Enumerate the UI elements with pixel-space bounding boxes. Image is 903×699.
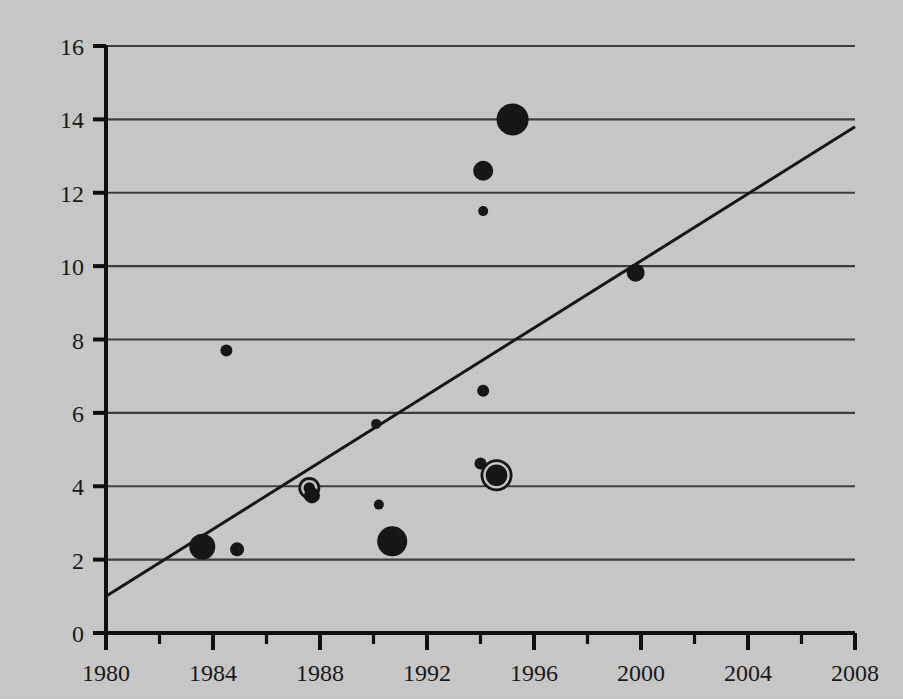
data-point-p09 <box>478 206 488 216</box>
data-point-series <box>189 103 644 559</box>
x-tick-label-1984: 1984 <box>189 660 237 686</box>
y-tick-label-12: 12 <box>60 181 84 207</box>
y-tick-label-6: 6 <box>72 401 84 427</box>
gridlines <box>106 46 855 560</box>
chart-page: 0246810121416 19801984198819921996200020… <box>0 0 903 699</box>
data-point-p15 <box>627 264 645 282</box>
data-point-p06 <box>371 419 381 429</box>
y-tick-label-10: 10 <box>60 254 84 280</box>
trend-line <box>106 127 855 597</box>
x-axis <box>104 633 855 650</box>
y-tick-label-8: 8 <box>72 328 84 354</box>
data-point-p11 <box>477 385 489 397</box>
data-point-p01 <box>189 534 215 560</box>
x-tick-label-1992: 1992 <box>403 660 451 686</box>
data-point-p10 <box>473 161 493 181</box>
y-tick-label-4: 4 <box>72 474 84 500</box>
x-tick-label-1988: 1988 <box>296 660 344 686</box>
x-tick-label-1980: 1980 <box>82 660 130 686</box>
bubble-scatter-chart: 0246810121416 19801984198819921996200020… <box>0 0 903 699</box>
x-tick-label-2004: 2004 <box>724 660 772 686</box>
data-point-p03 <box>230 542 244 556</box>
x-tick-label-2008: 2008 <box>831 660 879 686</box>
data-point-p07 <box>374 500 384 510</box>
trend-line-path <box>106 127 855 597</box>
data-point-p02 <box>220 345 232 357</box>
y-tick-label-2: 2 <box>72 548 84 574</box>
data-point-p08 <box>377 526 407 556</box>
x-tick-label-1996: 1996 <box>510 660 558 686</box>
data-point-p14 <box>497 103 529 135</box>
x-tick-label-2000: 2000 <box>617 660 665 686</box>
y-axis <box>93 45 106 633</box>
y-tick-label-14: 14 <box>60 107 84 133</box>
y-tick-label-16: 16 <box>60 34 84 60</box>
y-tick-label-0: 0 <box>72 621 84 647</box>
y-axis-tick-labels: 0246810121416 <box>60 34 84 647</box>
data-point-p05 <box>304 487 320 503</box>
x-axis-tick-labels: 19801984198819921996200020042008 <box>82 660 879 686</box>
